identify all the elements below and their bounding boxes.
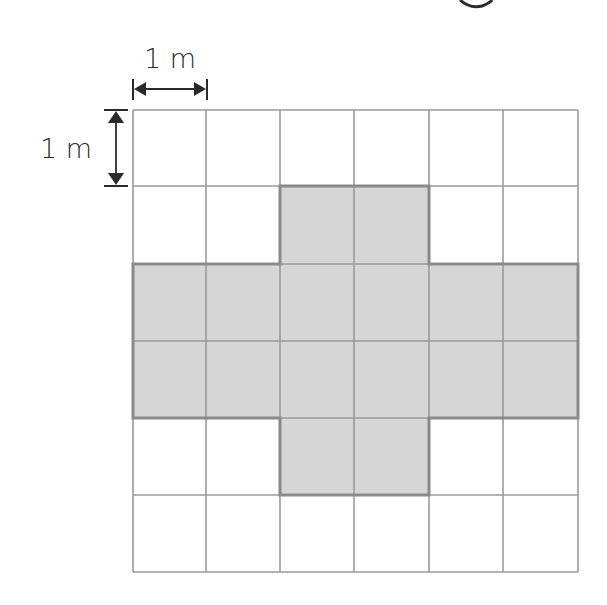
arrowhead-left-icon: [134, 82, 146, 96]
arrowhead-down-icon: [108, 173, 124, 185]
area-diagram: 1 m 1 m: [0, 0, 607, 605]
vertical-dimension: 1 m: [40, 110, 128, 186]
grid: [133, 110, 578, 572]
horizontal-dimension: 1 m: [133, 43, 207, 100]
vertical-dimension-label: 1 m: [40, 133, 92, 164]
title-cutoff-glyph: [460, 0, 492, 7]
arrowhead-right-icon: [194, 82, 206, 96]
arrowhead-up-icon: [108, 111, 124, 123]
horizontal-dimension-label: 1 m: [144, 43, 196, 74]
